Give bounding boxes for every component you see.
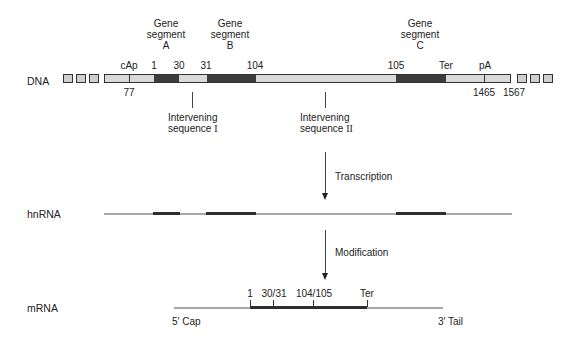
- flanking-dna-box: [543, 74, 553, 83]
- gene-segment-c-label: Gene segment C: [401, 18, 439, 51]
- position-105-label: 105: [388, 60, 405, 71]
- intervening-sequence-i-label: Intervening sequence I: [168, 112, 218, 134]
- mrna-junction-104-105-label: 104/105: [296, 288, 332, 299]
- modification-label: Modification: [335, 247, 388, 258]
- transcription-arrow-shaft: [325, 152, 326, 194]
- flanking-dna-box: [76, 74, 86, 83]
- polya-site-label: pA: [479, 60, 491, 71]
- flanking-dna-box: [517, 74, 527, 83]
- gene-segment-c-line1: Gene: [401, 18, 439, 29]
- gene-segment-b-label: Gene segment B: [211, 18, 249, 51]
- intervening-ii-numeral: II: [346, 123, 353, 134]
- intervening-ii-word: sequence: [300, 123, 343, 134]
- gene-segment-b-line3: B: [211, 40, 249, 51]
- flanking-dna-box: [89, 74, 99, 83]
- terminator-label: Ter: [439, 60, 453, 71]
- cap-site-divider: [129, 75, 130, 82]
- mrna-terminator-label: Ter: [360, 288, 374, 299]
- three-prime-tail-label: 3′ Tail: [438, 316, 463, 327]
- hnrna-row-label: hnRNA: [27, 208, 61, 220]
- five-prime-cap-label: 5′ Cap: [172, 316, 201, 327]
- flanking-dna-box: [530, 74, 540, 83]
- modification-arrow-head-icon: [322, 273, 328, 280]
- mrna-tick-1: [250, 300, 251, 307]
- gene-segment-a-line3: A: [147, 40, 185, 51]
- mrna-tick-ter: [367, 300, 368, 307]
- intervening-ii-line1: Intervening: [300, 112, 353, 123]
- hnrna-exon-c: [396, 212, 446, 215]
- exon-c: [396, 75, 446, 82]
- intervening-ii-pointer: [325, 92, 326, 108]
- position-30-label: 30: [173, 60, 184, 71]
- mrna-position-1-label: 1: [247, 288, 253, 299]
- mrna-row-label: mRNA: [27, 302, 58, 314]
- gene-segment-b-line2: segment: [211, 29, 249, 40]
- gene-segment-a-label: Gene segment A: [147, 18, 185, 51]
- mrna-tick-104-105: [313, 300, 314, 307]
- dna-bar: [104, 74, 511, 83]
- transcription-label: Transcription: [335, 171, 392, 182]
- gene-segment-c-line3: C: [401, 40, 439, 51]
- position-1-label: 1: [151, 60, 157, 71]
- mrna-tick-30-31: [273, 300, 274, 307]
- position-104-label: 104: [247, 60, 264, 71]
- intervening-ii-line2: sequence II: [300, 123, 353, 134]
- cap-site-label: cAp: [120, 60, 137, 71]
- gene-segment-c-line2: segment: [401, 29, 439, 40]
- intervening-i-pointer: [192, 92, 193, 108]
- gene-segment-a-line2: segment: [147, 29, 185, 40]
- position-31-label: 31: [200, 60, 211, 71]
- hnrna-exon-b: [206, 212, 256, 215]
- exon-a: [154, 75, 179, 82]
- mrna-junction-30-31-label: 30/31: [261, 288, 286, 299]
- modification-arrow-shaft: [325, 230, 326, 274]
- flanking-dna-box: [63, 74, 73, 83]
- intervening-i-numeral: I: [214, 123, 217, 134]
- gene-segment-b-line1: Gene: [211, 18, 249, 29]
- polya-site-divider: [484, 75, 485, 82]
- position-1465-label: 1465: [473, 87, 495, 98]
- hnrna-exon-a: [153, 212, 180, 215]
- intervening-sequence-ii-label: Intervening sequence II: [300, 112, 353, 134]
- exon-b: [207, 75, 256, 82]
- transcription-arrow-head-icon: [322, 193, 328, 200]
- intervening-i-word: sequence: [168, 123, 211, 134]
- position-77-label: 77: [123, 87, 134, 98]
- gene-segment-a-line1: Gene: [147, 18, 185, 29]
- intervening-i-line2: sequence I: [168, 123, 218, 134]
- mrna-coding-region: [250, 306, 367, 309]
- position-1567-label: 1567: [503, 87, 525, 98]
- intervening-i-line1: Intervening: [168, 112, 218, 123]
- dna-row-label: DNA: [27, 75, 49, 87]
